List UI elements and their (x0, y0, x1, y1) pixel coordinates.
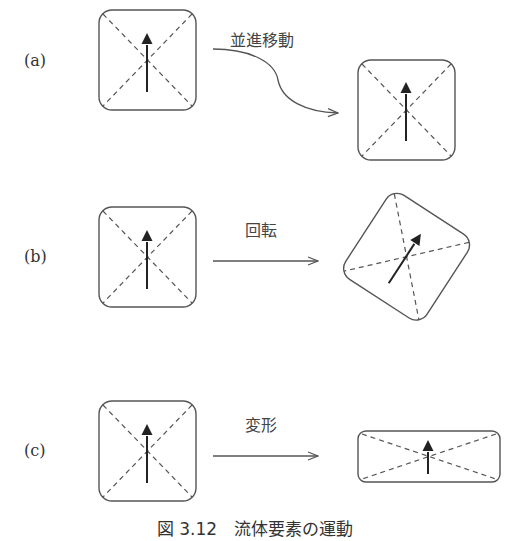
row-b-motion-label: 回転 (245, 221, 277, 240)
row-a-translation: (a) 並進移動 (24, 10, 455, 160)
row-a-initial-element (99, 10, 196, 110)
figure-caption: 図 3.12 流体要素の運動 (157, 519, 353, 539)
row-a-translated-element (358, 60, 455, 160)
row-c-deformed-element (358, 431, 500, 482)
row-b-rotated-element (339, 188, 475, 325)
row-b-label: (b) (24, 247, 47, 266)
row-a-curved-arrow-icon (213, 49, 338, 113)
row-c-motion-label: 変形 (245, 416, 277, 435)
row-c-deformation: (c) 変形 (24, 401, 500, 501)
row-c-initial-element (99, 401, 196, 501)
row-a-label: (a) (24, 51, 46, 70)
fluid-element-motion-diagram: (a) 並進移動 (b) 回転 (0, 0, 510, 541)
row-b-initial-element (99, 207, 196, 307)
row-b-rotation: (b) 回転 (24, 188, 474, 325)
row-c-label: (c) (24, 441, 45, 460)
row-a-motion-label: 並進移動 (230, 31, 294, 50)
